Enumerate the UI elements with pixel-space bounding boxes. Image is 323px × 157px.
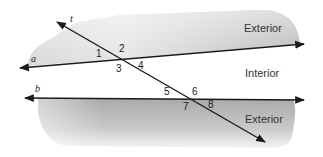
transversal-diagram: t a b Exterior Interior Exterior 1 2 3 4… — [0, 0, 323, 157]
angle-label-1: 1 — [96, 49, 102, 59]
line-label-b: b — [35, 84, 40, 94]
angle-label-2: 2 — [119, 44, 125, 54]
region-label-exterior-bottom: Exterior — [245, 114, 283, 125]
angle-label-5: 5 — [164, 87, 170, 97]
angle-label-7: 7 — [183, 102, 189, 112]
line-label-a: a — [31, 54, 36, 64]
angle-label-6: 6 — [192, 87, 198, 97]
angle-label-8: 8 — [208, 100, 214, 110]
region-label-interior: Interior — [245, 68, 279, 79]
region-label-exterior-top: Exterior — [244, 23, 282, 34]
angle-label-4: 4 — [138, 61, 144, 71]
angle-label-3: 3 — [116, 64, 122, 74]
line-label-t: t — [70, 14, 73, 24]
